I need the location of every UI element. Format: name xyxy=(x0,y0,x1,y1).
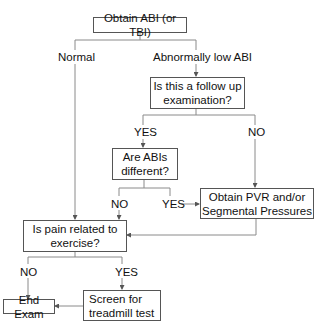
node-obtain-abi-text: Obtain ABI (or TBI) xyxy=(94,11,186,39)
node-follow-up-text: Is this a follow up examination? xyxy=(151,79,244,107)
node-abis-different-text: Are ABIs different? xyxy=(113,150,177,178)
node-obtain-pvr-text: Obtain PVR and/or Segmental Pressures xyxy=(201,190,313,218)
node-obtain-pvr: Obtain PVR and/or Segmental Pressures xyxy=(200,188,314,219)
edge-label-pain-yes: YES xyxy=(115,265,138,279)
edge-label-abis-yes: YES xyxy=(162,197,185,211)
edge-label-follow-up-no: NO xyxy=(248,125,265,139)
edge-label-abis-no: NO xyxy=(111,197,128,211)
node-screen-treadmill-text: Screen for treadmill test xyxy=(89,292,160,320)
node-pain-exercise-text: Is pain related to exercise? xyxy=(24,222,126,250)
node-abis-different: Are ABIs different? xyxy=(112,148,178,180)
edge-label-normal: Normal xyxy=(58,50,95,64)
node-end-exam: End Exam xyxy=(3,299,55,314)
node-obtain-abi: Obtain ABI (or TBI) xyxy=(93,17,187,33)
node-screen-treadmill: Screen for treadmill test xyxy=(83,290,161,321)
node-end-exam-text: End Exam xyxy=(4,293,54,321)
edge-label-follow-up-yes: YES xyxy=(134,125,157,139)
node-pain-exercise: Is pain related to exercise? xyxy=(23,220,127,252)
edge-label-abnormal: Abnormally low ABI xyxy=(153,50,252,64)
node-follow-up: Is this a follow up examination? xyxy=(150,77,245,109)
edge-label-pain-no: NO xyxy=(20,265,37,279)
